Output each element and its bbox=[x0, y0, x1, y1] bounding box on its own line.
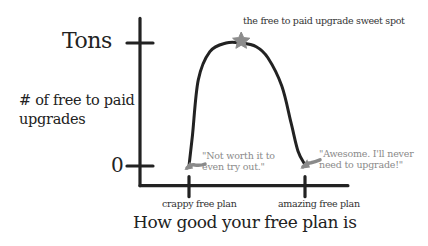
y-tick-label-tons: Tons bbox=[62, 30, 112, 52]
high-end-quote: "Awesome. I'll never need to upgrade!" bbox=[319, 148, 414, 170]
y-tick-label-zero: 0 bbox=[111, 155, 124, 175]
sweet-spot-annotation: the free to paid upgrade sweet spot bbox=[243, 16, 405, 26]
low-end-quote: "Not worth it to even try out." bbox=[202, 150, 275, 172]
x-axis-label: How good your free plan is bbox=[133, 214, 356, 231]
low-end-quote-line-1: "Not worth it to bbox=[202, 150, 275, 161]
y-axis-label: # of free to paid upgrades bbox=[19, 91, 139, 129]
curve-group bbox=[189, 42, 305, 166]
sweet-spot-star bbox=[233, 32, 250, 48]
high-end-quote-line-2: need to upgrade!" bbox=[319, 159, 414, 170]
x-tick-label-crappy: crappy free plan bbox=[162, 199, 237, 209]
series-line-upgrades bbox=[189, 42, 305, 166]
markers bbox=[186, 32, 320, 169]
high-end-quote-line-1: "Awesome. I'll never bbox=[319, 148, 414, 159]
low-end-quote-line-2: even try out." bbox=[202, 161, 275, 172]
x-tick-label-amazing: amazing free plan bbox=[278, 199, 360, 209]
